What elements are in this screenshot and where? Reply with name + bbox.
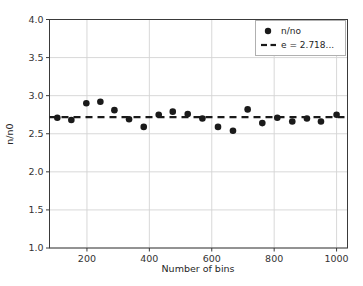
y-tick-label: 1.0 — [28, 242, 43, 253]
legend[interactable]: n/no e = 2.718... — [256, 21, 346, 56]
data-point — [274, 114, 281, 121]
chart-figure: 2004006008001000 1.01.52.02.53.03.54.0 N… — [0, 0, 363, 286]
legend-label-0: n/no — [281, 26, 301, 36]
x-axis-label: Number of bins — [162, 263, 235, 274]
data-point — [289, 118, 296, 125]
scatter-plot: 2004006008001000 1.01.52.02.53.03.54.0 N… — [0, 0, 363, 286]
x-tick-label: 200 — [78, 253, 96, 264]
y-tick-label: 1.5 — [28, 204, 43, 215]
data-point — [199, 115, 206, 122]
data-point — [333, 111, 340, 118]
y-tick-label: 2.5 — [28, 128, 43, 139]
data-point — [83, 100, 90, 107]
data-point — [244, 106, 251, 113]
x-tick-label: 400 — [140, 253, 158, 264]
data-point — [54, 114, 61, 121]
legend-marker-dot-icon — [265, 28, 271, 34]
x-tick-label: 1000 — [324, 253, 348, 264]
data-point — [140, 124, 147, 131]
x-tick-label: 800 — [265, 253, 283, 264]
data-point — [304, 115, 311, 122]
data-point — [215, 124, 222, 131]
data-point — [68, 117, 75, 124]
data-point — [155, 111, 162, 118]
data-point — [259, 120, 266, 127]
data-point — [184, 111, 191, 118]
y-tick-label: 4.0 — [28, 14, 43, 25]
data-point — [230, 127, 237, 134]
data-point — [97, 98, 104, 105]
legend-label-1: e = 2.718... — [281, 40, 334, 50]
data-point — [126, 116, 133, 123]
data-point — [318, 118, 325, 125]
y-tick-label: 3.5 — [28, 52, 43, 63]
y-tick-label: 3.0 — [28, 90, 43, 101]
y-tick-label: 2.0 — [28, 166, 43, 177]
y-axis-label: n/n0 — [4, 123, 15, 144]
data-point — [169, 108, 176, 115]
data-point — [111, 107, 118, 114]
